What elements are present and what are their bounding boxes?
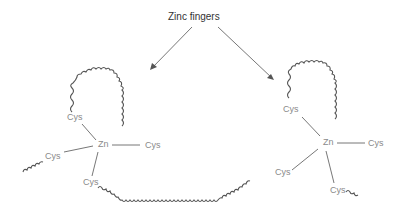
left-cys-left: Cys [45, 152, 61, 161]
connector-chain [98, 181, 250, 202]
right-cys-left: Cys [275, 168, 291, 177]
diagram-title: Zinc fingers [168, 12, 220, 22]
left-bonds [64, 124, 140, 176]
left-cys-top: Cys [67, 113, 83, 122]
right-bonds [292, 117, 365, 183]
right-cys-top: Cys [283, 105, 299, 114]
left-cys-right: Cys [145, 141, 161, 150]
right-cys-right: Cys [368, 139, 384, 148]
left-tail [23, 162, 43, 172]
left-cys-bottom: Cys [83, 178, 99, 187]
right-cys-bottom: Cys [330, 186, 346, 195]
left-zn: Zn [98, 140, 109, 149]
right-zn: Zn [323, 138, 334, 147]
arrows [150, 27, 274, 80]
right-tail [346, 191, 358, 196]
